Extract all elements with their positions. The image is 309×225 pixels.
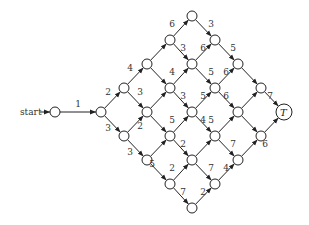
edge	[173, 68, 188, 85]
edge-weight: 1	[75, 99, 81, 109]
edge	[264, 118, 278, 133]
edge-weight: 3	[208, 19, 214, 29]
start-label: start	[20, 107, 42, 117]
node	[165, 131, 175, 141]
node	[233, 59, 243, 69]
node	[187, 11, 197, 21]
edge-weight: 7	[230, 139, 236, 149]
edge-weight: 4	[223, 163, 229, 173]
edge-weight: 2	[169, 163, 175, 173]
node	[142, 107, 152, 117]
edge	[150, 92, 166, 109]
edge	[241, 68, 257, 85]
edge-weight: 7	[208, 163, 214, 173]
node	[165, 179, 175, 189]
edge-weight: 5	[208, 115, 214, 125]
edge	[218, 116, 234, 133]
node	[96, 107, 106, 117]
edge	[241, 116, 257, 133]
edge-weight: 4	[127, 63, 133, 73]
node	[119, 83, 129, 93]
node	[256, 83, 266, 93]
edge-weight: 4	[200, 115, 206, 125]
node	[119, 131, 129, 141]
node	[187, 203, 197, 213]
node	[210, 35, 220, 45]
node	[210, 83, 220, 93]
node	[187, 59, 197, 69]
edge-weight: 5	[169, 115, 175, 125]
edge-weight: 5	[149, 159, 155, 169]
edge	[173, 164, 188, 181]
edge	[173, 20, 188, 37]
edge	[150, 140, 166, 157]
edge-weight: 6	[262, 139, 268, 149]
edge-weight: 7	[267, 91, 273, 101]
edge	[150, 44, 166, 61]
edge	[150, 116, 166, 133]
node	[165, 83, 175, 93]
edge-weight: 6	[169, 19, 175, 29]
node	[187, 155, 197, 165]
node	[233, 155, 243, 165]
edge-weight: 6	[223, 91, 229, 101]
node	[165, 35, 175, 45]
edge-weight: 7	[180, 187, 186, 197]
node	[142, 59, 152, 69]
edge-weight: 2	[137, 121, 143, 131]
edge-weight: 5	[208, 67, 214, 77]
edge-weight: 3	[180, 43, 186, 53]
graph-diagram: 1234323634352527365564574256776 start T	[0, 0, 309, 225]
edge-weight: 3	[105, 123, 111, 133]
node	[187, 107, 197, 117]
edge-weight: 3	[180, 91, 186, 101]
node	[233, 107, 243, 117]
edge-weight: 3	[127, 147, 133, 157]
edge-weight: 2	[105, 87, 111, 97]
node	[50, 107, 60, 117]
node	[210, 131, 220, 141]
edge	[241, 140, 257, 157]
edge-weight: 5	[200, 91, 206, 101]
edge-weight: 2	[180, 139, 186, 149]
edge	[195, 140, 211, 157]
edges	[60, 20, 278, 205]
edge-weight: 5	[230, 43, 236, 53]
edge-weight: 4	[169, 67, 175, 77]
edge-weight: 3	[137, 87, 143, 97]
edge	[173, 116, 188, 133]
edge	[150, 68, 166, 85]
edge-weight: 6	[223, 67, 229, 77]
edge-weight: 6	[200, 43, 206, 53]
edge	[241, 92, 257, 109]
edge-weight: 2	[200, 187, 206, 197]
node	[210, 179, 220, 189]
